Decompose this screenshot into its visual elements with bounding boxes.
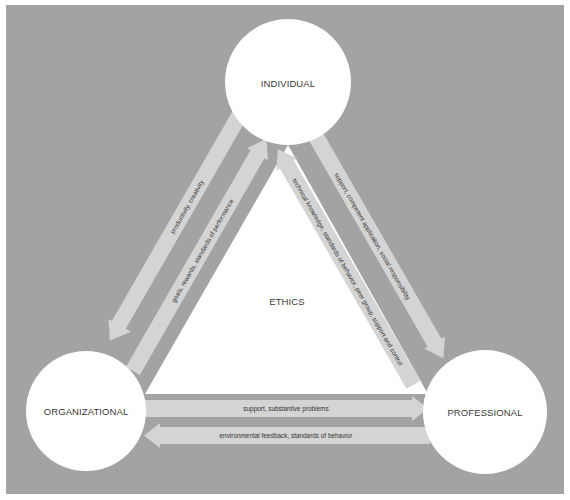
node-individual: INDIVIDUAL	[225, 19, 351, 145]
node-organizational: ORGANIZATIONAL	[26, 351, 146, 471]
flow-label: support, substantive problems	[243, 405, 328, 413]
center-label: ETHICS	[269, 296, 304, 307]
ethics-diagram: productivity, creativity goals, rewards,…	[0, 0, 570, 500]
node-professional: PROFESSIONAL	[423, 350, 547, 474]
node-label: INDIVIDUAL	[261, 78, 315, 89]
flow-label: environmental feedback, standards of beh…	[220, 432, 354, 439]
node-label: PROFESSIONAL	[447, 407, 522, 418]
node-label: ORGANIZATIONAL	[44, 406, 129, 417]
